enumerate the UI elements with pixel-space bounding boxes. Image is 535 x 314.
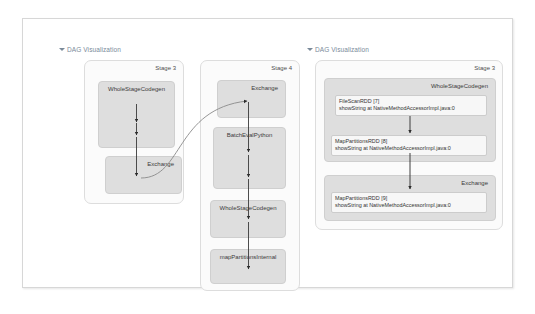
- node-exchange-stage4[interactable]: Exchange: [217, 80, 286, 118]
- right-dag-visualization-toggle[interactable]: DAG Visualization: [307, 46, 369, 53]
- node-batchevalpython[interactable]: BatchEvalPython: [213, 127, 286, 189]
- node-wholestagecodegen-stage3[interactable]: WholeStageCodegen: [98, 81, 175, 148]
- caret-down-icon: [307, 48, 313, 51]
- rdd-mappartitionsrdd-9[interactable]: MapPartitionsRDD [9] showString at Nativ…: [331, 192, 487, 213]
- right-dag-visualization-label: DAG Visualization: [315, 46, 369, 53]
- rdd-mappartitionsrdd-8-name: MapPartitionsRDD [8]: [335, 138, 483, 145]
- node-wholestagecodegen-stage3-label: WholeStageCodegen: [99, 86, 174, 92]
- node-exchange-detail-label: Exchange: [461, 180, 488, 186]
- node-wholestagecodegen-detail-label: WholeStageCodegen: [431, 83, 488, 89]
- left-dag-visualization-label: DAG Visualization: [67, 46, 121, 53]
- left-dag-visualization-toggle[interactable]: DAG Visualization: [59, 46, 121, 53]
- node-wholestagecodegen-stage4-label: WholeStageCodegen: [211, 205, 285, 211]
- dag-visualization-screen: DAG Visualization Stage 3 WholeStageCode…: [0, 0, 535, 314]
- node-exchange-stage3[interactable]: Exchange: [105, 156, 182, 194]
- rdd-mappartitionsrdd-8[interactable]: MapPartitionsRDD [8] showString at Nativ…: [331, 135, 487, 156]
- node-wholestagecodegen-detail[interactable]: WholeStageCodegen FileScanRDD [7] showSt…: [324, 78, 496, 162]
- rdd-filescanrdd-7[interactable]: FileScanRDD [7] showString at NativeMeth…: [335, 95, 487, 116]
- rdd-mappartitionsrdd-9-callsite: showString at NativeMethodAccessorImpl.j…: [335, 202, 483, 209]
- rdd-mappartitionsrdd-9-name: MapPartitionsRDD [9]: [335, 195, 483, 202]
- node-mappartitionsinternal-label: mapPartitionsInternal: [211, 254, 285, 260]
- node-wholestagecodegen-stage4[interactable]: WholeStageCodegen: [210, 200, 286, 238]
- node-exchange-detail[interactable]: Exchange MapPartitionsRDD [9] showString…: [324, 175, 496, 221]
- node-batchevalpython-label: BatchEvalPython: [214, 132, 285, 138]
- node-exchange-stage3-label: Exchange: [147, 161, 174, 167]
- dag-card-panel: DAG Visualization Stage 3 WholeStageCode…: [22, 18, 513, 288]
- node-exchange-stage4-label: Exchange: [251, 85, 278, 91]
- rdd-mappartitionsrdd-8-callsite: showString at NativeMethodAccessorImpl.j…: [335, 145, 483, 152]
- caret-down-icon: [59, 48, 65, 51]
- stage-4-label: Stage 4: [271, 65, 292, 71]
- rdd-filescanrdd-7-callsite: showString at NativeMethodAccessorImpl.j…: [339, 105, 483, 112]
- node-mappartitionsinternal[interactable]: mapPartitionsInternal: [210, 249, 286, 284]
- rdd-filescanrdd-7-name: FileScanRDD [7]: [339, 98, 483, 105]
- stage-3-detail-label: Stage 3: [474, 65, 495, 71]
- stage-3-label: Stage 3: [155, 65, 176, 71]
